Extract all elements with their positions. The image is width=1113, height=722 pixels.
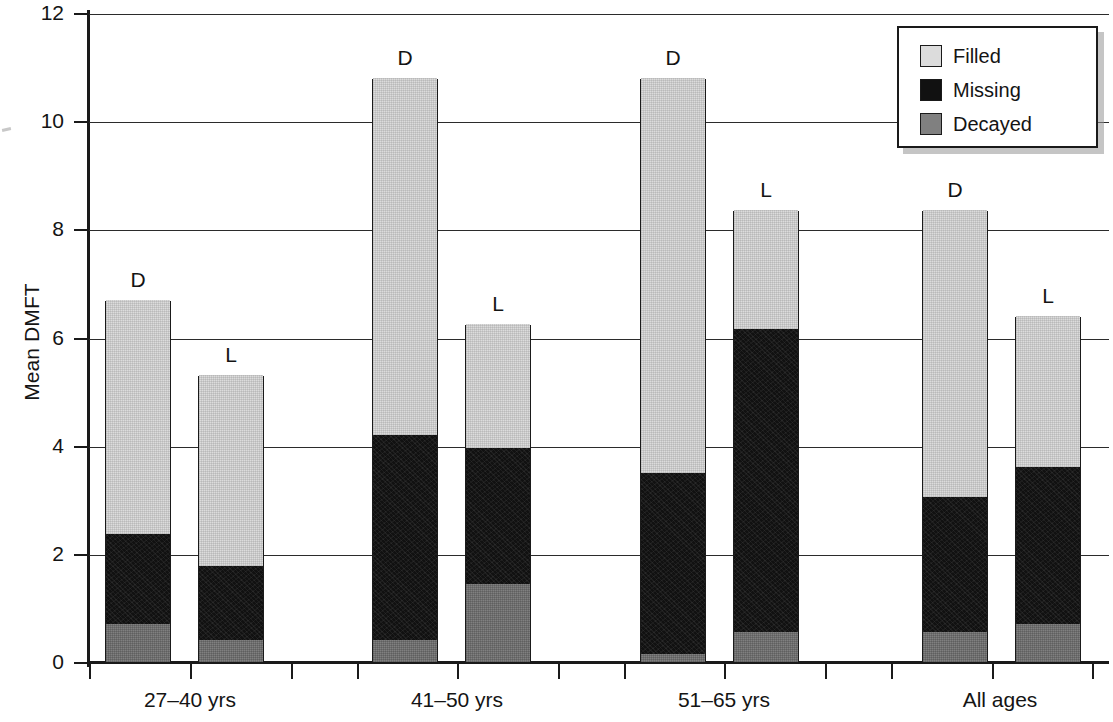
bar-3-d[interactable] xyxy=(372,79,438,663)
x-tick-mark-4 xyxy=(457,663,459,679)
stacked-bar-chart: Mean DMFT 024681012 DLDLDLDL 27–40 yrs41… xyxy=(0,0,1113,722)
y-tick-label-4: 4 xyxy=(0,434,64,458)
segment-decayed xyxy=(373,640,437,662)
legend-item-missing[interactable]: Missing xyxy=(920,73,1096,107)
bar-top-label-2: L xyxy=(196,343,266,367)
segment-missing xyxy=(466,448,530,583)
bar-top-label-6: L xyxy=(731,178,801,202)
segment-decayed xyxy=(466,584,530,662)
bar-7-d[interactable] xyxy=(922,211,988,663)
x-tick-mark-9 xyxy=(891,663,893,679)
x-tick-mark-5 xyxy=(558,663,560,679)
segment-filled xyxy=(641,78,705,473)
y-tick-label-8: 8 xyxy=(0,217,64,241)
segment-missing xyxy=(106,534,170,624)
y-tick-mark-8 xyxy=(74,229,87,231)
segment-filled xyxy=(1016,316,1080,467)
y-tick-mark-10 xyxy=(74,121,87,123)
x-tick-mark-6 xyxy=(624,663,626,679)
y-tick-mark-0 xyxy=(74,662,87,664)
segment-decayed xyxy=(1016,624,1080,662)
bar-1-d[interactable] xyxy=(105,301,171,663)
x-tick-mark-3 xyxy=(357,663,359,679)
segment-missing xyxy=(734,329,798,632)
x-tick-mark-1 xyxy=(190,663,192,679)
bar-5-d[interactable] xyxy=(640,79,706,663)
segment-filled xyxy=(106,300,170,534)
bar-top-label-3: D xyxy=(370,46,440,70)
legend-item-decayed[interactable]: Decayed xyxy=(920,107,1096,141)
x-tick-mark-0 xyxy=(89,663,91,679)
bar-2-l[interactable] xyxy=(198,376,264,663)
chart-legend: Filled Missing Decayed xyxy=(897,26,1098,148)
y-tick-mark-12 xyxy=(74,13,87,15)
gridline-12 xyxy=(89,14,1109,15)
x-tick-mark-7 xyxy=(724,663,726,679)
x-group-label-0: 27–40 yrs xyxy=(90,688,290,712)
bar-top-label-4: L xyxy=(463,292,533,316)
x-group-label-2: 51–65 yrs xyxy=(624,688,824,712)
bar-top-label-5: D xyxy=(638,46,708,70)
y-tick-mark-6 xyxy=(74,338,87,340)
legend-item-filled[interactable]: Filled xyxy=(920,39,1096,73)
bar-top-label-7: D xyxy=(920,178,990,202)
x-group-label-3: All ages xyxy=(900,688,1100,712)
segment-missing xyxy=(1016,467,1080,624)
segment-missing xyxy=(923,497,987,632)
segment-decayed xyxy=(923,632,987,662)
x-tick-mark-10 xyxy=(992,663,994,679)
bar-8-l[interactable] xyxy=(1015,317,1081,663)
segment-missing xyxy=(641,473,705,654)
segment-decayed xyxy=(199,640,263,662)
bar-4-l[interactable] xyxy=(465,325,531,663)
segment-filled xyxy=(923,210,987,497)
segment-missing xyxy=(373,435,437,641)
legend-label-missing: Missing xyxy=(953,80,1021,100)
segment-missing xyxy=(199,566,263,640)
y-tick-label-0: 0 xyxy=(0,650,64,674)
x-group-label-1: 41–50 yrs xyxy=(357,688,557,712)
x-tick-mark-2 xyxy=(291,663,293,679)
segment-filled xyxy=(199,375,263,566)
filled-swatch xyxy=(920,45,942,67)
bar-6-l[interactable] xyxy=(733,211,799,663)
segment-filled xyxy=(734,210,798,329)
legend-label-decayed: Decayed xyxy=(953,114,1032,134)
x-tick-mark-8 xyxy=(825,663,827,679)
segment-filled xyxy=(373,78,437,435)
x-tick-mark-11 xyxy=(1092,663,1094,679)
missing-swatch xyxy=(920,79,942,101)
y-tick-label-6: 6 xyxy=(0,326,64,350)
segment-filled xyxy=(466,324,530,448)
y-tick-label-10: 10 xyxy=(0,109,64,133)
segment-decayed xyxy=(641,654,705,662)
segment-decayed xyxy=(734,632,798,662)
y-tick-label-2: 2 xyxy=(0,542,64,566)
y-tick-label-12: 12 xyxy=(0,1,64,25)
y-tick-mark-2 xyxy=(74,554,87,556)
bar-top-label-1: D xyxy=(103,268,173,292)
decayed-swatch xyxy=(920,113,942,135)
bar-top-label-8: L xyxy=(1013,284,1083,308)
y-tick-mark-4 xyxy=(74,446,87,448)
legend-label-filled: Filled xyxy=(953,46,1001,66)
segment-decayed xyxy=(106,624,170,662)
